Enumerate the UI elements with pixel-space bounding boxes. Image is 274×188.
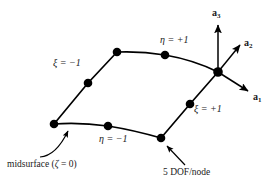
node-corner-bottom-right: [157, 134, 166, 143]
midsurface-text: midsurface (: [7, 159, 55, 169]
label-eta-plus-1: η = +1: [160, 35, 188, 45]
label-xi-plus-1: ξ = +1: [194, 104, 222, 114]
node-corner-bottom-left: [50, 120, 59, 129]
a3-subscript: 3: [217, 12, 221, 20]
axis-triad: [218, 25, 248, 91]
dof-leader-arrow: [167, 146, 185, 165]
node-mid-left: [84, 79, 93, 88]
a1-subscript: 1: [258, 96, 262, 104]
label-a2-axis: a2: [244, 38, 253, 50]
midsurface-tail: = 0): [59, 159, 77, 169]
label-a1-axis: a1: [253, 92, 262, 104]
label-dof-per-node: 5 DOF/node: [163, 168, 210, 178]
label-midsurface: midsurface (ζ = 0): [7, 160, 77, 170]
shell-element-figure: ξ = −1 η = +1 ξ = +1 η = −1 a3 a2 a1 mid…: [0, 0, 274, 188]
node-corner-right: [213, 67, 223, 77]
label-xi-minus-1: ξ = −1: [53, 58, 81, 68]
label-eta-minus-1: η = −1: [99, 134, 127, 144]
a2-subscript: 2: [249, 42, 253, 50]
node-corner-top-left: [113, 48, 122, 57]
node-mid-right: [186, 100, 195, 109]
a1-axis-arrow: [218, 72, 248, 91]
midsurface-leader-arrow: [40, 131, 68, 157]
node-mid-bottom: [104, 122, 113, 131]
label-a3-axis: a3: [212, 8, 221, 20]
a2-axis-arrow: [218, 45, 240, 72]
node-mid-top: [161, 51, 170, 60]
